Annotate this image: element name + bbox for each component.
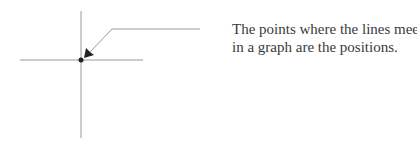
caption-line-2: in a graph are the positions. bbox=[232, 38, 417, 56]
intersection-point bbox=[79, 58, 84, 63]
leader-line bbox=[89, 29, 200, 53]
caption-line-1: The points where the lines meet bbox=[232, 20, 417, 38]
caption-text: The points where the lines meet in a gra… bbox=[232, 20, 417, 56]
